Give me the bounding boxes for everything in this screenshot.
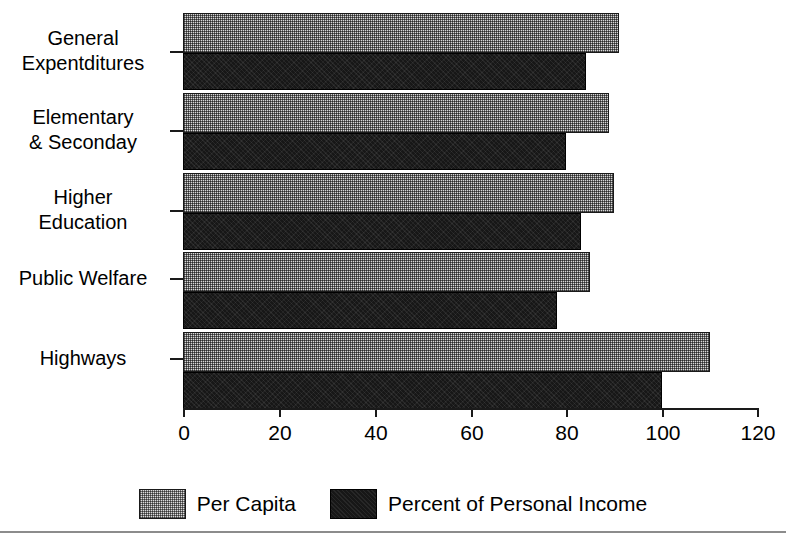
x-axis-tick xyxy=(757,408,759,417)
category-label-highways: Highways xyxy=(0,346,166,371)
bar-per-capita-highways xyxy=(183,332,710,372)
bar-percent-income-public-welfare xyxy=(183,292,557,329)
x-axis-tick-label: 20 xyxy=(240,420,320,445)
x-axis-tick-label: 40 xyxy=(336,420,416,445)
x-axis-tick xyxy=(566,408,568,417)
x-axis-tick-label: 100 xyxy=(623,420,703,445)
bar-percent-income-higher-education xyxy=(183,213,581,250)
x-axis-tick-label: 60 xyxy=(432,420,512,445)
bar-percent-income-highways xyxy=(183,372,662,409)
legend-label-percent-of-personal-income: Percent of Personal Income xyxy=(388,492,647,516)
category-tick xyxy=(170,210,184,212)
x-axis-tick xyxy=(662,408,664,417)
x-axis-tick-label: 120 xyxy=(718,420,786,445)
plot-area xyxy=(183,10,758,408)
category-axis-labels: General Expentditures Elementary & Secon… xyxy=(0,10,176,408)
category-label-elementary-secondary: Elementary & Seconday xyxy=(0,105,166,155)
bar-per-capita-public-welfare xyxy=(183,252,590,292)
category-label-line: Elementary xyxy=(0,105,166,130)
category-label-general-expenditures: General Expentditures xyxy=(0,26,166,76)
x-axis-tick xyxy=(183,408,185,417)
category-label-line: Highways xyxy=(0,346,166,371)
legend-swatch-percent-income-icon xyxy=(330,489,377,519)
category-label-line: & Seconday xyxy=(0,130,166,155)
legend-swatch-per-capita-icon xyxy=(139,489,186,519)
category-label-public-welfare: Public Welfare xyxy=(0,266,166,291)
bar-percent-income-general-expenditures xyxy=(183,53,586,90)
category-label-line: Higher xyxy=(0,185,166,210)
category-label-line: Education xyxy=(0,210,166,235)
bar-per-capita-elementary-secondary xyxy=(183,93,609,133)
bar-percent-income-elementary-secondary xyxy=(183,133,566,170)
x-axis-tick xyxy=(279,408,281,417)
legend-item-per-capita: Per Capita xyxy=(139,489,296,519)
category-label-higher-education: Higher Education xyxy=(0,185,166,235)
category-tick xyxy=(170,358,184,360)
category-label-line: Public Welfare xyxy=(0,266,166,291)
bar-per-capita-higher-education xyxy=(183,173,614,213)
category-tick xyxy=(170,278,184,280)
x-axis-tick xyxy=(375,408,377,417)
category-tick xyxy=(170,51,184,53)
x-axis-tick xyxy=(471,408,473,417)
category-label-line: Expentditures xyxy=(0,51,166,76)
bar-per-capita-general-expenditures xyxy=(183,13,619,53)
legend-label-per-capita: Per Capita xyxy=(197,492,296,516)
x-axis-tick-label: 80 xyxy=(527,420,607,445)
legend-item-percent-of-personal-income: Percent of Personal Income xyxy=(330,489,647,519)
category-label-line: General xyxy=(0,26,166,51)
x-axis-tick-label: 0 xyxy=(144,420,224,445)
bar-chart: General Expentditures Elementary & Secon… xyxy=(0,0,786,534)
chart-legend: Per Capita Percent of Personal Income xyxy=(0,482,786,526)
bottom-rule xyxy=(0,531,786,533)
category-tick xyxy=(170,130,184,132)
